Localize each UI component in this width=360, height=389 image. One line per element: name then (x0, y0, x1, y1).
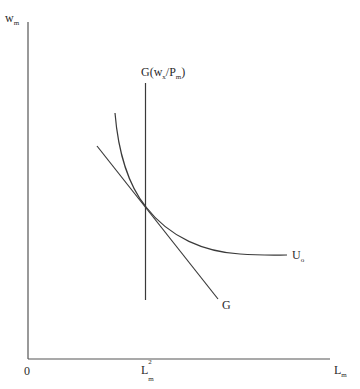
y-axis-label-sub: m (14, 19, 19, 27)
indifference-curve-u (115, 113, 287, 255)
vline-label-prefix: G(w (141, 65, 162, 79)
y-axis-label: wm (5, 12, 19, 24)
budget-line-g (97, 146, 218, 299)
origin-label: 0 (24, 365, 30, 377)
x-axis-label: Lm (334, 364, 347, 376)
curve-label-u: Uo (292, 249, 304, 261)
y-axis-label-base: w (5, 11, 14, 25)
x-axis-label-sub: m (341, 371, 346, 379)
tick-label-sub: m (148, 375, 153, 383)
vline-label-suffix: ) (181, 65, 185, 79)
tick-label-l2m: L2m (141, 364, 154, 376)
curve-label-base: U (292, 248, 301, 262)
vline-label-mid: /P (166, 65, 176, 79)
curve-label-sub: o (301, 256, 305, 264)
budget-line-label: G (222, 299, 231, 311)
vertical-line-label: G(wx/Pm) (141, 66, 185, 78)
diagram-canvas (0, 0, 360, 389)
